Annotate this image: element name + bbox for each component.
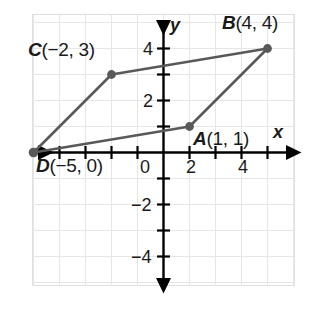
point-label-d: D(−5, 0) bbox=[36, 156, 103, 175]
point-label-a: A(1, 1) bbox=[193, 129, 249, 148]
point-label-a-coords: (1, 1) bbox=[206, 128, 249, 149]
y-tick-label-neg2: −2 bbox=[131, 196, 152, 214]
vertex-c bbox=[107, 70, 116, 79]
point-label-c-coords: (−2, 3) bbox=[41, 39, 94, 60]
y-tick-label-4: 4 bbox=[143, 40, 153, 58]
x-axis-label: x bbox=[273, 123, 283, 141]
x-tick-label-2: 2 bbox=[186, 158, 196, 176]
point-label-d-coords: (−5, 0) bbox=[49, 155, 102, 176]
point-label-c-name: C bbox=[28, 39, 41, 60]
point-label-b: B(4, 4) bbox=[222, 13, 278, 32]
point-label-d-name: D bbox=[36, 155, 49, 176]
y-tick-label-neg4: −4 bbox=[131, 248, 152, 266]
vertex-b bbox=[263, 44, 272, 53]
y-tick-label-2: 2 bbox=[143, 92, 153, 110]
x-tick-label-4: 4 bbox=[238, 158, 248, 176]
y-axis-label: y bbox=[170, 16, 180, 34]
origin-label: 0 bbox=[140, 158, 150, 176]
point-label-b-name: B bbox=[222, 12, 235, 33]
point-label-c: C(−2, 3) bbox=[28, 40, 95, 59]
point-label-a-name: A bbox=[193, 128, 206, 149]
point-label-b-coords: (4, 4) bbox=[235, 12, 278, 33]
